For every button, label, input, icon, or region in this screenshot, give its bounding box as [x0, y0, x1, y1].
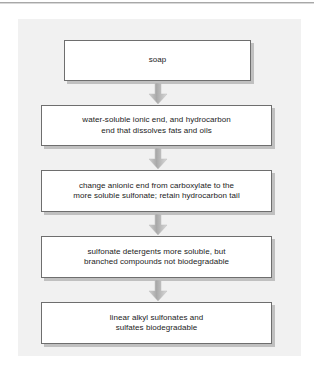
flow-node-branched-not-biodegradable: sulfonate detergents more soluble, but b…: [41, 236, 272, 278]
down-arrow-icon: [148, 280, 168, 302]
flow-node-4-text: sulfonate detergents more soluble, but b…: [84, 247, 229, 268]
flow-node-linear-alkyl-biodegradable: linear alkyl sulfonates and sulfates bio…: [41, 302, 272, 344]
flow-node-4-line2: branched compounds not biodegradable: [84, 257, 229, 268]
flow-node-2-line1: water-soluble ionic end, and hydrocarbon: [82, 115, 230, 126]
flow-node-5-line1: linear alkyl sulfonates and: [110, 313, 203, 324]
flow-node-5-line2: sulfates biodegradable: [110, 323, 203, 334]
flow-node-soap-label: soap: [149, 55, 167, 66]
flow-node-5-text: linear alkyl sulfonates and sulfates bio…: [110, 313, 203, 334]
flow-node-3-text: change anionic end from carboxylate to t…: [73, 181, 239, 202]
flow-node-soap-structure: water-soluble ionic end, and hydrocarbon…: [41, 105, 272, 146]
flow-node-2-text: water-soluble ionic end, and hydrocarbon…: [82, 115, 230, 136]
down-arrow-icon: [148, 214, 168, 236]
flow-node-4-line1: sulfonate detergents more soluble, but: [84, 247, 229, 258]
flow-node-2-line2: end that dissolves fats and oils: [82, 126, 230, 137]
flow-node-3-line2: more soluble sulfonate; retain hydrocarb…: [73, 191, 239, 202]
down-arrow-icon: [148, 148, 168, 170]
down-arrow-icon: [148, 83, 168, 105]
flowchart-figure: soap water-soluble ionic end, and hydroc…: [0, 0, 314, 372]
flowchart-nodes-container: soap water-soluble ionic end, and hydroc…: [0, 0, 314, 372]
flow-node-3-line1: change anionic end from carboxylate to t…: [73, 181, 239, 192]
flow-node-soap: soap: [64, 40, 251, 81]
flow-node-sulfonate-change: change anionic end from carboxylate to t…: [41, 170, 272, 212]
